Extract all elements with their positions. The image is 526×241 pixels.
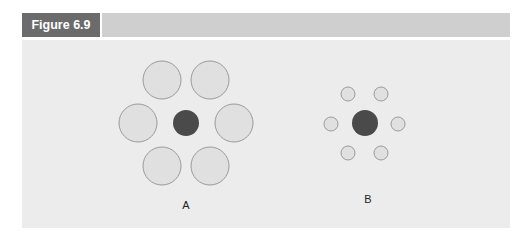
group-b-label: B (364, 193, 371, 205)
surround-circle (143, 61, 181, 99)
surround-circle (374, 87, 388, 101)
surround-circle (143, 147, 181, 185)
surround-circle (341, 146, 355, 160)
surround-circle (191, 61, 229, 99)
group-a-label: A (182, 199, 189, 211)
surround-circle (341, 87, 355, 101)
surround-circle (191, 147, 229, 185)
surround-circle (374, 146, 388, 160)
surround-circle (215, 104, 253, 142)
center-circle (173, 110, 199, 136)
surround-circle (119, 104, 157, 142)
center-circle (352, 110, 378, 136)
surround-circle (324, 117, 338, 131)
ebbinghaus-illusion-diagram (0, 0, 526, 241)
surround-circle (391, 117, 405, 131)
